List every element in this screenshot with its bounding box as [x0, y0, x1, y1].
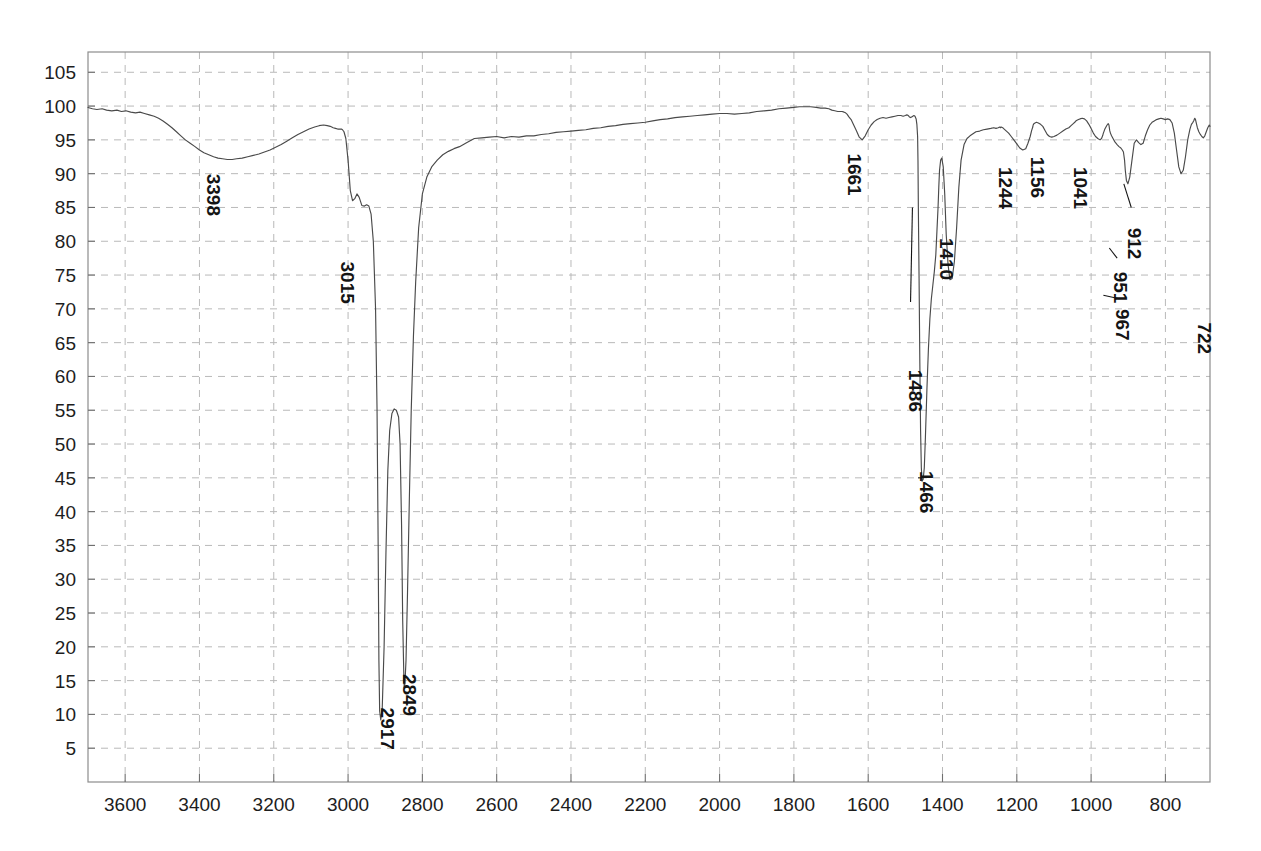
x-tick-label: 1600	[847, 794, 889, 815]
peak-label: 3015	[337, 262, 358, 305]
y-tick-label: 10	[55, 704, 76, 725]
y-tick-label: 5	[65, 738, 76, 759]
x-tick-label: 2400	[550, 794, 592, 815]
x-tick-label: 2000	[698, 794, 740, 815]
y-tick-label: 40	[55, 502, 76, 523]
peak-label: 951	[1110, 272, 1131, 304]
peak-label: 912	[1124, 228, 1145, 260]
peak-label: 722	[1194, 322, 1215, 354]
peak-label: 967	[1112, 309, 1133, 341]
x-tick-label: 3000	[327, 794, 369, 815]
peak-label: 1156	[1027, 157, 1048, 198]
y-tick-label: 75	[55, 265, 76, 286]
y-tick-label: 95	[55, 130, 76, 151]
x-tick-label: 1200	[996, 794, 1038, 815]
peak-label: 1486	[905, 370, 926, 412]
y-tick-label: 105	[44, 62, 76, 83]
peak-label: 2917	[377, 708, 398, 750]
peak-label: 1041	[1070, 167, 1091, 210]
spectrum-svg: 5101520253035404550556065707580859095100…	[0, 0, 1261, 851]
x-tick-label: 2200	[624, 794, 666, 815]
y-tick-label: 20	[55, 637, 76, 658]
y-tick-label: 80	[55, 231, 76, 252]
peak-label: 1410	[936, 238, 957, 280]
x-tick-label: 1800	[773, 794, 815, 815]
peak-label: 1466	[916, 471, 937, 513]
peak-label: 3398	[203, 174, 224, 216]
x-tick-label: 2600	[476, 794, 518, 815]
y-tick-label: 85	[55, 197, 76, 218]
y-tick-label: 90	[55, 164, 76, 185]
x-tick-label: 1000	[1070, 794, 1112, 815]
y-tick-label: 15	[55, 671, 76, 692]
y-tick-label: 45	[55, 468, 76, 489]
peak-label: 1244	[995, 167, 1016, 210]
y-tick-label: 70	[55, 299, 76, 320]
x-tick-label: 1400	[921, 794, 963, 815]
x-tick-label: 3400	[178, 794, 220, 815]
ir-spectrum-figure: 5101520253035404550556065707580859095100…	[0, 0, 1261, 851]
x-tick-label: 3600	[104, 794, 146, 815]
y-tick-label: 55	[55, 400, 76, 421]
peak-label: 1661	[844, 153, 865, 196]
x-tick-label: 800	[1150, 794, 1182, 815]
y-tick-label: 30	[55, 569, 76, 590]
y-tick-label: 65	[55, 333, 76, 354]
y-axis: 5101520253035404550556065707580859095100…	[44, 62, 95, 759]
y-tick-label: 60	[55, 366, 76, 387]
y-tick-label: 100	[44, 96, 76, 117]
peak-label: 2849	[399, 674, 420, 716]
x-tick-label: 3200	[253, 794, 295, 815]
y-tick-label: 35	[55, 535, 76, 556]
x-tick-label: 2800	[401, 794, 443, 815]
y-tick-label: 25	[55, 603, 76, 624]
y-tick-label: 50	[55, 434, 76, 455]
